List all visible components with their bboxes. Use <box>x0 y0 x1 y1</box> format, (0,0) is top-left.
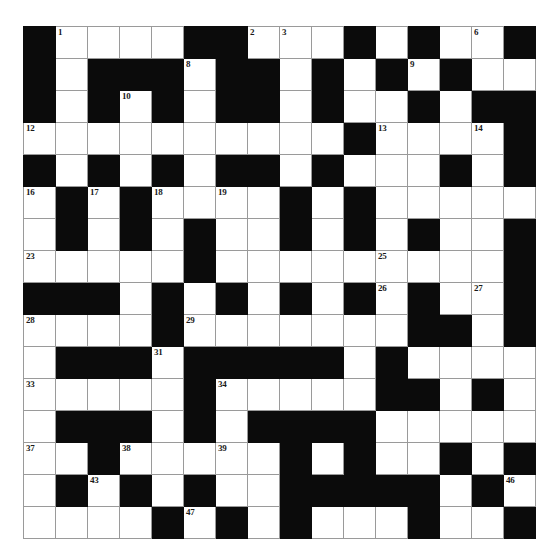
letter-cell[interactable] <box>120 315 152 347</box>
letter-cell[interactable] <box>344 251 376 283</box>
letter-cell[interactable] <box>376 315 408 347</box>
letter-cell[interactable] <box>216 251 248 283</box>
letter-cell[interactable] <box>472 347 504 379</box>
letter-cell[interactable] <box>56 379 88 411</box>
letter-cell[interactable] <box>24 475 56 507</box>
letter-cell[interactable] <box>504 379 536 411</box>
letter-cell[interactable]: 23 <box>24 251 56 283</box>
letter-cell[interactable] <box>376 155 408 187</box>
letter-cell[interactable] <box>24 507 56 539</box>
letter-cell[interactable] <box>280 251 312 283</box>
letter-cell[interactable] <box>120 27 152 59</box>
letter-cell[interactable] <box>88 27 120 59</box>
letter-cell[interactable] <box>408 411 440 443</box>
letter-cell[interactable] <box>216 315 248 347</box>
letter-cell[interactable] <box>56 507 88 539</box>
letter-cell[interactable] <box>248 251 280 283</box>
letter-cell[interactable] <box>312 507 344 539</box>
letter-cell[interactable] <box>88 379 120 411</box>
letter-cell[interactable] <box>440 475 472 507</box>
letter-cell[interactable] <box>440 347 472 379</box>
letter-cell[interactable] <box>472 219 504 251</box>
letter-cell[interactable] <box>408 443 440 475</box>
letter-cell[interactable]: 27 <box>472 283 504 315</box>
letter-cell[interactable] <box>152 219 184 251</box>
letter-cell[interactable]: 38 <box>120 443 152 475</box>
letter-cell[interactable] <box>344 347 376 379</box>
letter-cell[interactable]: 14 <box>472 123 504 155</box>
letter-cell[interactable] <box>408 155 440 187</box>
letter-cell[interactable] <box>408 347 440 379</box>
letter-cell[interactable] <box>152 411 184 443</box>
letter-cell[interactable] <box>280 59 312 91</box>
letter-cell[interactable] <box>408 251 440 283</box>
letter-cell[interactable] <box>216 411 248 443</box>
letter-cell[interactable] <box>312 187 344 219</box>
letter-cell[interactable] <box>312 315 344 347</box>
crossword-grid-body[interactable]: 1236891012131416171819232526272829313334… <box>24 27 536 539</box>
letter-cell[interactable] <box>248 475 280 507</box>
letter-cell[interactable]: 31 <box>152 347 184 379</box>
letter-cell[interactable]: 39 <box>216 443 248 475</box>
crossword-grid-container[interactable]: 1236891012131416171819232526272829313334… <box>23 26 536 539</box>
letter-cell[interactable] <box>472 155 504 187</box>
letter-cell[interactable]: 46 <box>504 475 536 507</box>
letter-cell[interactable]: 19 <box>216 187 248 219</box>
letter-cell[interactable] <box>312 123 344 155</box>
letter-cell[interactable] <box>376 219 408 251</box>
letter-cell[interactable] <box>24 219 56 251</box>
letter-cell[interactable] <box>152 443 184 475</box>
letter-cell[interactable] <box>472 507 504 539</box>
letter-cell[interactable]: 33 <box>24 379 56 411</box>
letter-cell[interactable]: 13 <box>376 123 408 155</box>
letter-cell[interactable] <box>504 411 536 443</box>
letter-cell[interactable] <box>88 315 120 347</box>
letter-cell[interactable] <box>56 123 88 155</box>
letter-cell[interactable] <box>56 59 88 91</box>
letter-cell[interactable] <box>472 315 504 347</box>
letter-cell[interactable] <box>312 283 344 315</box>
letter-cell[interactable] <box>184 91 216 123</box>
letter-cell[interactable] <box>408 187 440 219</box>
letter-cell[interactable]: 18 <box>152 187 184 219</box>
letter-cell[interactable] <box>248 315 280 347</box>
letter-cell[interactable] <box>280 315 312 347</box>
letter-cell[interactable] <box>280 91 312 123</box>
letter-cell[interactable] <box>120 123 152 155</box>
letter-cell[interactable] <box>184 283 216 315</box>
letter-cell[interactable] <box>344 507 376 539</box>
letter-cell[interactable] <box>376 507 408 539</box>
letter-cell[interactable] <box>312 443 344 475</box>
letter-cell[interactable]: 28 <box>24 315 56 347</box>
letter-cell[interactable] <box>248 219 280 251</box>
letter-cell[interactable]: 47 <box>184 507 216 539</box>
letter-cell[interactable] <box>344 315 376 347</box>
letter-cell[interactable] <box>376 91 408 123</box>
letter-cell[interactable]: 6 <box>472 27 504 59</box>
letter-cell[interactable] <box>56 251 88 283</box>
letter-cell[interactable] <box>344 155 376 187</box>
letter-cell[interactable] <box>56 315 88 347</box>
letter-cell[interactable] <box>472 443 504 475</box>
letter-cell[interactable]: 12 <box>24 123 56 155</box>
letter-cell[interactable] <box>152 251 184 283</box>
letter-cell[interactable] <box>184 187 216 219</box>
letter-cell[interactable] <box>88 251 120 283</box>
letter-cell[interactable] <box>184 155 216 187</box>
letter-cell[interactable] <box>56 443 88 475</box>
letter-cell[interactable]: 10 <box>120 91 152 123</box>
letter-cell[interactable] <box>120 155 152 187</box>
letter-cell[interactable] <box>472 59 504 91</box>
letter-cell[interactable] <box>248 443 280 475</box>
letter-cell[interactable] <box>56 91 88 123</box>
letter-cell[interactable] <box>248 187 280 219</box>
letter-cell[interactable]: 3 <box>280 27 312 59</box>
letter-cell[interactable]: 16 <box>24 187 56 219</box>
letter-cell[interactable] <box>152 379 184 411</box>
letter-cell[interactable] <box>152 27 184 59</box>
letter-cell[interactable] <box>152 475 184 507</box>
letter-cell[interactable] <box>312 251 344 283</box>
letter-cell[interactable] <box>376 443 408 475</box>
letter-cell[interactable] <box>440 219 472 251</box>
letter-cell[interactable]: 9 <box>408 59 440 91</box>
